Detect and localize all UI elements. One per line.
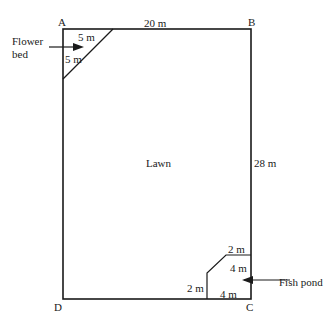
fish-pond-arrowhead-icon (242, 276, 253, 284)
corner-b-label: B (248, 16, 255, 28)
right-dimension-label: 28 m (254, 157, 276, 169)
flower-bed-label-line1: Flower (12, 35, 43, 47)
pond-bottom-label: 4 m (220, 288, 237, 300)
pond-right-label: 4 m (230, 262, 247, 274)
pond-left-label: 2 m (187, 282, 204, 294)
lawn-label: Lawn (146, 157, 171, 169)
corner-d-label: D (54, 301, 62, 313)
flower-bed-side-label: 5 m (65, 53, 82, 65)
fish-pond-label: Fish pond (279, 276, 323, 288)
flower-bed-top-label: 5 m (78, 31, 95, 43)
flower-bed-label-line2: bed (12, 48, 28, 60)
top-dimension-label: 20 m (144, 17, 166, 29)
corner-c-label: C (246, 301, 253, 313)
pond-top-label: 2 m (228, 243, 245, 255)
flower-bed-arrowhead-icon (73, 43, 84, 51)
corner-a-label: A (58, 16, 66, 28)
